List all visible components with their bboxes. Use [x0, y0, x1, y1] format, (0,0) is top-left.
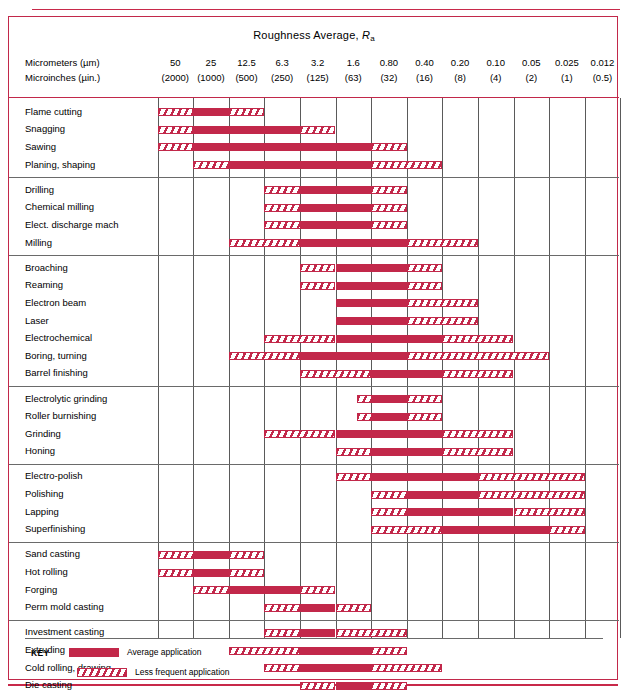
key-separator [25, 638, 603, 639]
axis-microinches-1: (1000) [193, 72, 229, 83]
bar-less-frequent [158, 569, 194, 577]
key-swatch-average [69, 648, 119, 657]
process-label: Forging [25, 584, 57, 595]
axis-microinches-7: (16) [407, 72, 443, 83]
bar-average [193, 126, 300, 134]
process-label: Hot rolling [25, 566, 68, 577]
group-separator-5 [9, 542, 619, 543]
bar-less-frequent [158, 143, 194, 151]
process-label: Sand casting [25, 548, 80, 559]
bar-less-frequent [300, 264, 336, 272]
bar-less-frequent [336, 629, 407, 637]
bar-average [371, 448, 442, 456]
axis-micrometers-3: 6.3 [264, 57, 300, 68]
axis-microinches-4: (125) [300, 72, 336, 83]
bar-less-frequent [478, 473, 585, 481]
chart-title: Roughness Average, Ra [9, 29, 619, 43]
bar-less-frequent [442, 335, 513, 343]
bar-average [407, 491, 478, 499]
key-text-less-frequent: Less frequent application [135, 667, 230, 677]
bar-average [336, 317, 407, 325]
bar-less-frequent [336, 604, 372, 612]
bar-less-frequent [478, 491, 585, 499]
bar-less-frequent [264, 335, 335, 343]
axis-microinches-8: (8) [442, 72, 478, 83]
axis-microinches-12: (0.5) [585, 72, 621, 83]
bar-less-frequent [371, 221, 407, 229]
microinches-label: Microinches (µin.) [25, 72, 100, 83]
bar-less-frequent [371, 186, 407, 194]
process-label: Chemical milling [25, 201, 94, 212]
bar-less-frequent [193, 161, 229, 169]
axis-microinches-3: (250) [264, 72, 300, 83]
process-label: Electrochemical [25, 332, 92, 343]
grid-line-7 [407, 98, 408, 638]
axis-micrometers-9: 0.10 [478, 57, 514, 68]
bar-less-frequent [264, 204, 300, 212]
bar-less-frequent [407, 239, 478, 247]
plot-area: Flame cuttingSnaggingSawingPlaning, shap… [9, 98, 619, 638]
process-label: Polishing [25, 488, 64, 499]
bar-less-frequent [371, 526, 442, 534]
bar-average [371, 370, 442, 378]
grid-line-13 [620, 98, 621, 638]
bar-less-frequent [407, 395, 443, 403]
bar-average [371, 395, 407, 403]
process-label: Lapping [25, 506, 59, 517]
process-label: Planing, shaping [25, 159, 95, 170]
bar-less-frequent [407, 299, 478, 307]
bar-less-frequent [407, 264, 443, 272]
bar-less-frequent [371, 491, 407, 499]
bar-average [193, 108, 229, 116]
axis-micrometers-10: 0.05 [514, 57, 550, 68]
bar-less-frequent [300, 126, 336, 134]
bar-less-frequent [300, 586, 336, 594]
bar-less-frequent [264, 629, 300, 637]
bar-less-frequent [300, 370, 371, 378]
axis-micrometers-0: 50 [158, 57, 194, 68]
group-separator-2 [9, 255, 619, 256]
bar-average [300, 352, 407, 360]
axis-microinches-2: (500) [229, 72, 265, 83]
bar-average [336, 264, 407, 272]
bar-less-frequent [371, 204, 407, 212]
bar-less-frequent [407, 282, 443, 290]
bar-average [336, 682, 372, 690]
grid-line-6 [371, 98, 372, 638]
micrometers-label: Micrometers (µm) [25, 57, 100, 68]
grid-line-8 [442, 98, 443, 638]
grid-line-12 [585, 98, 586, 638]
process-label: Investment casting [25, 626, 104, 637]
axis-microinches-10: (2) [514, 72, 550, 83]
bar-less-frequent [407, 413, 443, 421]
bar-less-frequent [300, 282, 336, 290]
process-label: Sawing [25, 141, 56, 152]
process-label: Broaching [25, 262, 68, 273]
axis-micrometers-5: 1.6 [336, 57, 372, 68]
process-label: Snagging [25, 123, 65, 134]
process-label: Perm mold casting [25, 601, 104, 612]
axis-microinches-5: (63) [336, 72, 372, 83]
bar-less-frequent [229, 569, 265, 577]
chart-title-text: Roughness Average, [253, 29, 362, 41]
bar-average [407, 508, 514, 516]
bar-average [300, 604, 336, 612]
process-label: Barrel finishing [25, 367, 88, 378]
bar-average [336, 335, 443, 343]
bar-less-frequent [371, 161, 442, 169]
bar-less-frequent [371, 508, 407, 516]
key-text-average: Average application [127, 647, 202, 657]
key-legend: KEY Average application Less frequent ap… [9, 638, 619, 681]
process-label: Electro-polish [25, 470, 83, 481]
bar-less-frequent [158, 108, 194, 116]
bar-average [336, 282, 407, 290]
bar-average [193, 551, 229, 559]
axis-micrometers-1: 25 [193, 57, 229, 68]
bar-average [371, 413, 407, 421]
chart-frame: Roughness Average, Ra Micrometers (µm) M… [8, 16, 618, 680]
bar-less-frequent [549, 526, 585, 534]
process-label: Laser [25, 315, 49, 326]
bar-less-frequent [514, 508, 585, 516]
bar-average [300, 186, 371, 194]
roughness-chart-page: Roughness Average, Ra Micrometers (µm) M… [0, 0, 626, 692]
